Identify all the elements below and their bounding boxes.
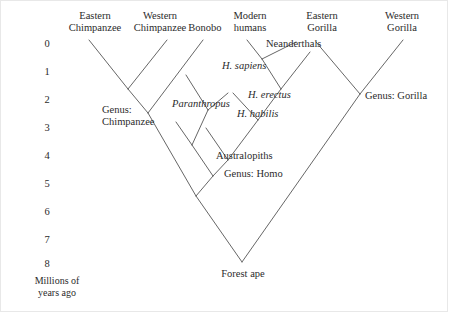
tip-label-western-gorilla-line1: Western <box>385 10 419 22</box>
axis-caption: Millions of years ago <box>35 275 80 299</box>
node-label-genus-gorilla: Genus: Gorilla <box>365 90 427 102</box>
tip-label-bonobo: Bonobo <box>188 22 221 34</box>
axis-tick-7: 7 <box>40 234 54 246</box>
tip-label-eastern-chimpanzee: Eastern Chimpanzee <box>69 10 121 34</box>
axis-tick-5: 5 <box>40 178 54 190</box>
branch-paranthropus-stem <box>192 110 208 145</box>
axis-tick-4: 4 <box>40 150 54 162</box>
tip-label-western-chimpanzee: Western Chimpanzee <box>134 10 186 34</box>
branch-australopith-stem <box>196 176 213 196</box>
branch-modern-humans <box>247 40 262 59</box>
node-label-h-erectus: H. erectus <box>248 89 291 101</box>
node-label-genus-homo-prefix: Genus: <box>224 168 256 179</box>
tip-label-western-gorilla-line2: Gorilla <box>385 22 419 34</box>
node-label-genus-chimpanzee: Genus: Chimpanzee <box>102 104 154 128</box>
node-label-paranthropus: Paranthropus <box>172 98 230 110</box>
tip-label-modern-humans-line1: Modern <box>233 10 266 22</box>
node-label-neanderthals: Neanderthals <box>266 38 321 50</box>
axis-caption-line2: years ago <box>35 287 80 299</box>
axis-tick-6: 6 <box>40 206 54 218</box>
branch-western-chimpanzee <box>128 40 167 89</box>
figure-canvas: Eastern Chimpanzee Western Chimpanzee Bo… <box>0 0 449 313</box>
tip-label-western-chimpanzee-line1: Western <box>134 10 186 22</box>
axis-tick-2: 2 <box>40 94 54 106</box>
branch-paranthropus-base <box>192 145 213 176</box>
tip-label-western-chimpanzee-line2: Chimpanzee <box>134 22 186 34</box>
node-label-h-habilis: H. habilis <box>237 108 278 120</box>
node-label-genus-chimpanzee-line2: Chimpanzee <box>102 116 154 128</box>
branch-hominin-root <box>196 196 242 262</box>
tip-label-eastern-gorilla: Eastern Gorilla <box>306 10 338 34</box>
tip-label-modern-humans-line2: humans <box>233 22 266 34</box>
tip-label-eastern-gorilla-line1: Eastern <box>306 10 338 22</box>
axis-tick-3: 3 <box>40 122 54 134</box>
axis-tick-8: 8 <box>40 258 54 270</box>
axis-tick-0: 0 <box>40 38 54 50</box>
branch-pan-stem <box>148 113 196 196</box>
tip-label-eastern-gorilla-line2: Gorilla <box>306 22 338 34</box>
node-label-h-sapiens: H. sapiens <box>222 60 266 72</box>
axis-caption-line1: Millions of <box>35 275 80 287</box>
branch-western-gorilla <box>360 40 403 94</box>
node-label-forest-ape: Forest ape <box>221 268 264 280</box>
tip-label-eastern-chimpanzee-line2: Chimpanzee <box>69 22 121 34</box>
branch-paranthropus-sister <box>176 122 192 145</box>
node-label-genus-homo-name: Homo <box>256 168 282 179</box>
tip-label-western-gorilla: Western Gorilla <box>385 10 419 34</box>
node-label-genus-chimpanzee-line1: Genus: <box>102 104 154 116</box>
node-label-genus-homo: Genus: Homo <box>224 168 283 180</box>
branch-neanderthal-lineage <box>281 52 310 89</box>
tip-label-eastern-chimpanzee-line1: Eastern <box>69 10 121 22</box>
branch-eastern-chimpanzee <box>89 40 128 89</box>
tip-label-modern-humans: Modern humans <box>233 10 266 34</box>
axis-tick-1: 1 <box>40 66 54 78</box>
node-label-australopiths: Australopiths <box>216 150 273 162</box>
branch-eastern-gorilla <box>316 42 360 94</box>
